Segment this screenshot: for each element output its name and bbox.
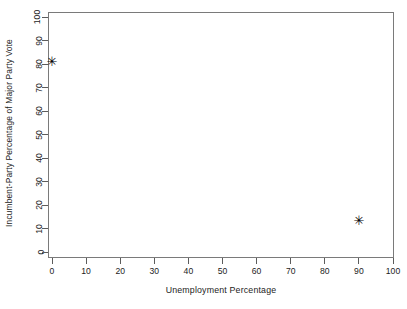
- x-tick-mark: [358, 258, 359, 264]
- y-tick-label: 80: [20, 58, 44, 70]
- y-tick-label: 70: [20, 82, 44, 94]
- x-tick-mark: [154, 258, 155, 264]
- x-axis-title: Unemployment Percentage: [48, 285, 394, 295]
- y-tick-label: 30: [20, 176, 44, 188]
- x-tick-label: 90: [344, 266, 374, 276]
- x-tick-mark: [120, 258, 121, 264]
- x-tick-mark: [324, 258, 325, 264]
- scatter-plot-figure: Incumbent-Party Percentage of Major Part…: [0, 0, 407, 309]
- x-tick-label: 70: [276, 266, 306, 276]
- y-tick-mark: [42, 205, 48, 206]
- x-tick-label: 30: [139, 266, 169, 276]
- y-tick-label: 100: [20, 11, 44, 23]
- y-axis-title: Incumbent-Party Percentage of Major Part…: [0, 0, 18, 266]
- x-tick-label: 50: [208, 266, 238, 276]
- x-tick-label: 10: [71, 266, 101, 276]
- data-point-marker: ✳: [47, 56, 58, 67]
- x-tick-label: 40: [173, 266, 203, 276]
- y-tick-mark: [42, 17, 48, 18]
- x-tick-label: 0: [37, 266, 67, 276]
- y-tick-mark: [42, 134, 48, 135]
- y-tick-label: 40: [20, 152, 44, 164]
- x-tick-mark: [290, 258, 291, 264]
- y-tick-label-text: 100: [32, 10, 42, 24]
- plot-area: [48, 12, 394, 258]
- y-tick-mark: [42, 228, 48, 229]
- x-tick-label: 60: [242, 266, 272, 276]
- y-tick-label: 10: [20, 223, 44, 235]
- x-tick-mark: [52, 258, 53, 264]
- x-tick-mark: [86, 258, 87, 264]
- y-axis-title-text: Incumbent-Party Percentage of Major Part…: [4, 39, 14, 227]
- x-tick-mark: [188, 258, 189, 264]
- y-tick-mark: [42, 40, 48, 41]
- x-axis-tick-labels: 0102030405060708090100: [0, 266, 407, 280]
- x-tick-mark: [222, 258, 223, 264]
- x-tick-mark: [393, 258, 394, 264]
- y-tick-label: 60: [20, 105, 44, 117]
- y-tick-label: 20: [20, 199, 44, 211]
- y-tick-mark: [42, 181, 48, 182]
- x-tick-label: 20: [105, 266, 135, 276]
- y-tick-label: 50: [20, 129, 44, 141]
- x-tick-mark: [256, 258, 257, 264]
- y-tick-label: 90: [20, 35, 44, 47]
- data-point-marker: ✳: [353, 215, 364, 226]
- y-axis-tick-labels: 0102030405060708090100: [20, 0, 46, 309]
- y-tick-mark: [42, 252, 48, 253]
- y-tick-mark: [42, 87, 48, 88]
- y-tick-mark: [42, 158, 48, 159]
- x-tick-label: 100: [378, 266, 407, 276]
- x-tick-label: 80: [310, 266, 340, 276]
- y-tick-mark: [42, 111, 48, 112]
- y-tick-label: 0: [20, 246, 44, 258]
